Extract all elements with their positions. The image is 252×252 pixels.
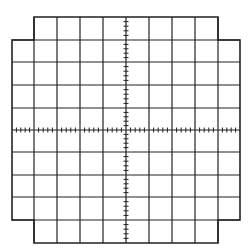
graticule-grid: [0, 0, 252, 252]
grid-lines: [12, 17, 240, 243]
